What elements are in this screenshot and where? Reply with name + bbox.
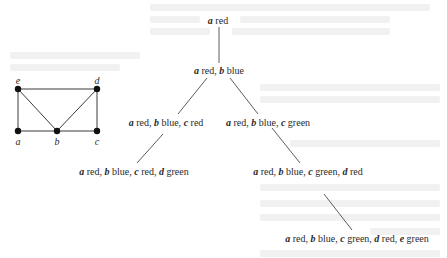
tree-node-n1: a red, b blue [194, 65, 245, 76]
vertex-a [15, 128, 21, 134]
tree-node-n3: a red, b blue, c green [226, 117, 310, 128]
vertex-label-b: b [55, 136, 60, 147]
tree-edge-n1-n3 [230, 78, 258, 114]
tree-nodes: a red a red, b blue a red, b blue, c red… [79, 15, 429, 244]
tree-node-n0: a red [208, 15, 228, 26]
tree-node-n4: a red, b blue, c red, d green [79, 166, 188, 177]
graph: edabc [15, 75, 101, 147]
vertex-e [15, 86, 21, 92]
vertex-label-c: c [95, 136, 100, 147]
tree-edges [137, 27, 352, 230]
tree-edge-n3-n5 [272, 128, 300, 163]
tree-edge-n2-n4 [137, 134, 163, 163]
vertex-b [54, 128, 60, 134]
vertex-c [94, 128, 100, 134]
vertex-d [94, 86, 100, 92]
tree-edge-n5-n6 [324, 194, 352, 230]
tree-node-n2: a red, b blue, c red [129, 117, 204, 128]
tree-edge-n1-n2 [178, 78, 207, 114]
vertex-label-d: d [95, 75, 101, 86]
tree-node-n6: a red, b blue, c green, d red, e green [285, 233, 429, 244]
graph-edge-e-b [18, 89, 57, 131]
graph-edge-d-b [57, 89, 97, 131]
vertex-label-e: e [16, 75, 21, 86]
tree-node-n5: a red, b blue, c green, d red [253, 166, 362, 177]
coloring-diagram: edabc a red a red, b blue a red, b blue,… [0, 0, 447, 258]
vertex-label-a: a [16, 136, 21, 147]
